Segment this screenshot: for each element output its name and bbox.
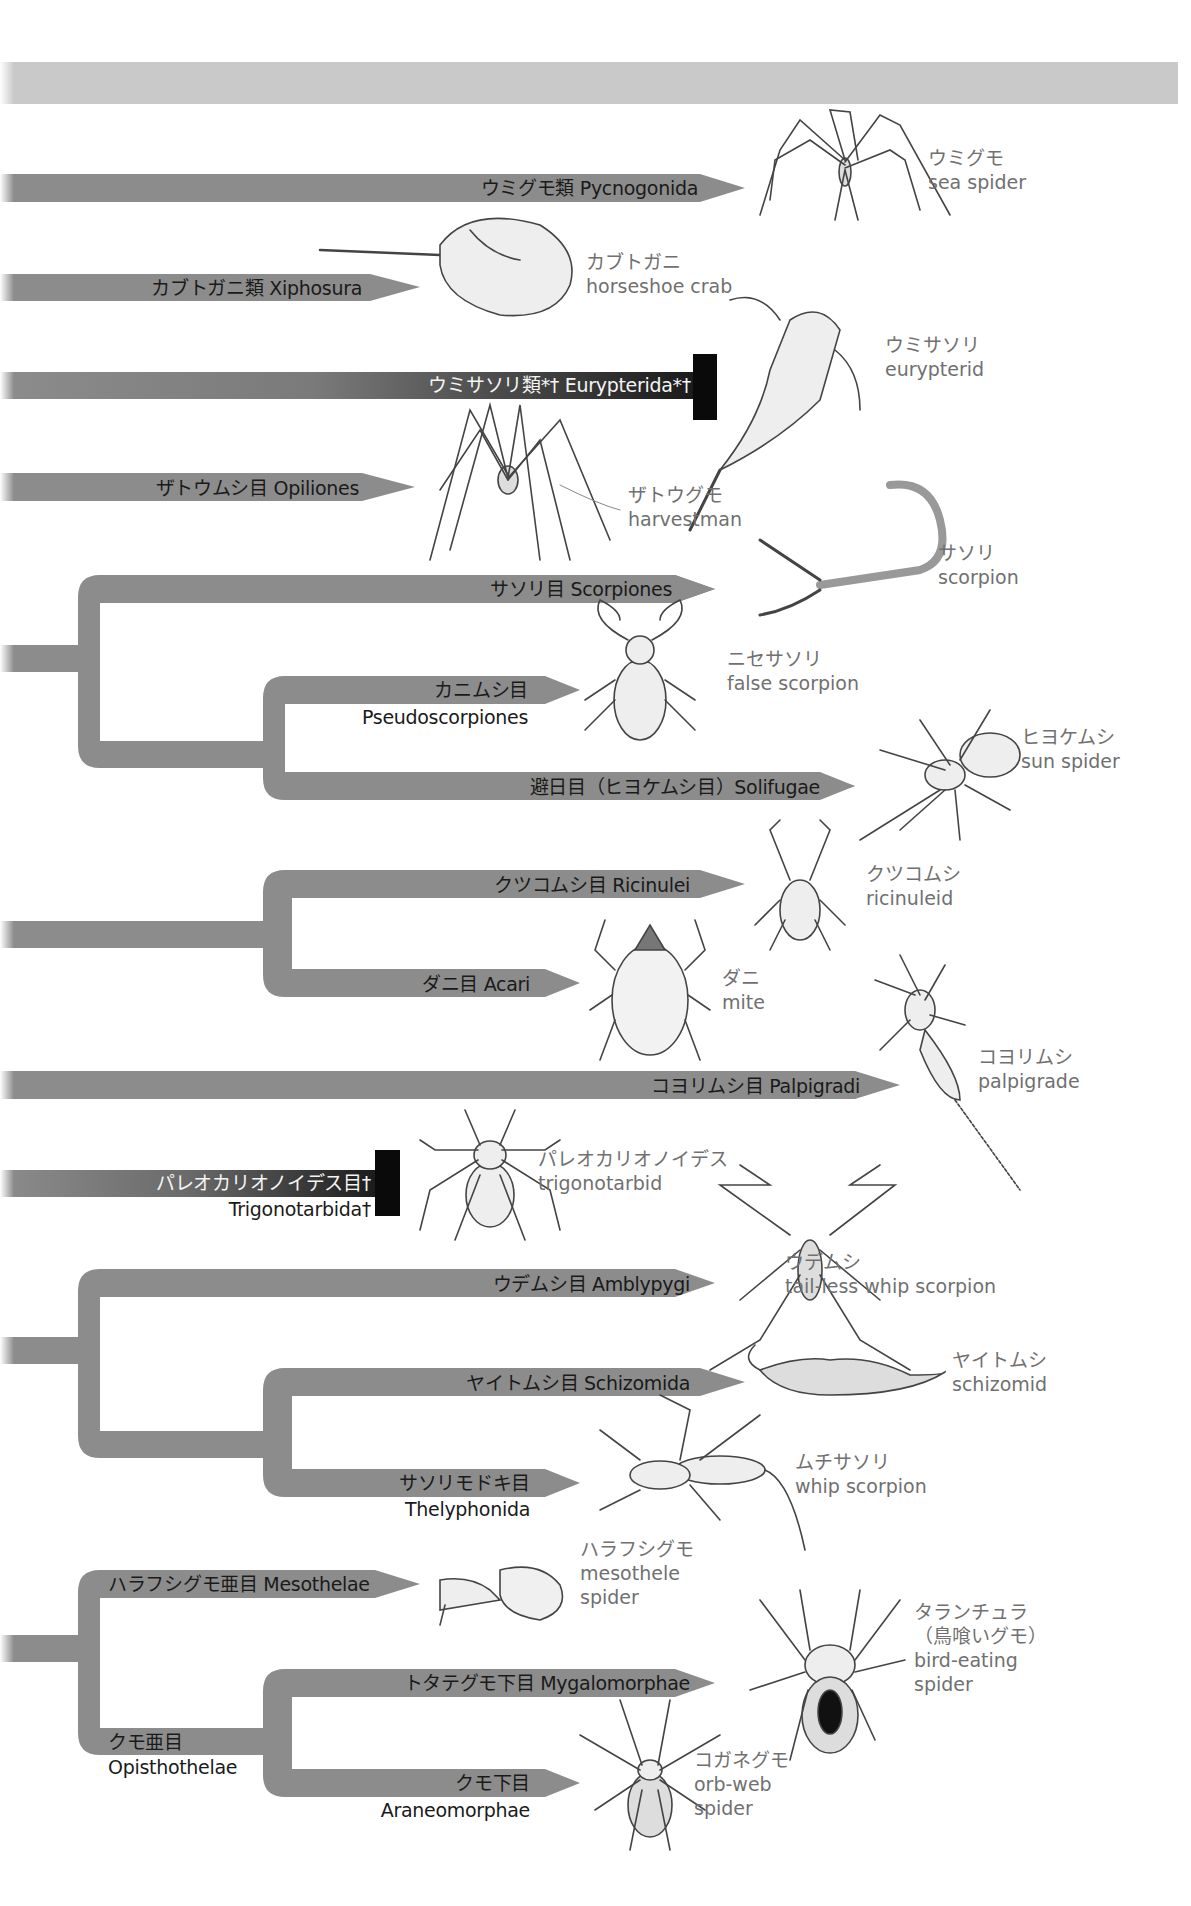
caption-mesothele-spider: ハラフシグモ mesothele spider [580, 1537, 694, 1609]
sun-spider-illustration [860, 710, 1020, 840]
label-ricinulei: クツコムシ目 Ricinulei [494, 874, 690, 896]
false-scorpion-illustration [585, 600, 695, 740]
caption-false-scorpion: ニセサソリ false scorpion [727, 647, 859, 695]
label-amblypygi: ウデムシ目 Amblypygi [493, 1273, 690, 1295]
caption-orb-web-spider: コガネグモ orb-web spider [694, 1748, 789, 1820]
caption-harvestman: ザトウグモ harvestman [628, 483, 742, 531]
caption-whip-scorpion: ムチサソリ whip scorpion [795, 1450, 927, 1498]
caption-scorpion: サソリ scorpion [938, 541, 1019, 589]
schizomid-illustration [749, 1345, 945, 1395]
caption-sea-spider: ウミグモ sea spider [928, 146, 1026, 194]
stem-node2 [0, 921, 270, 948]
caption-sun-spider: ヒヨケムシ sun spider [1021, 725, 1120, 773]
mite-illustration [590, 920, 710, 1060]
ricinuleid-illustration [755, 820, 845, 950]
harvestman-illustration [430, 405, 610, 560]
branch-node4 [78, 1570, 420, 1755]
whip-scorpion-illustration [600, 1395, 805, 1550]
caption-trigonotarbid: パレオカリオノイデス trigonotarbid [538, 1147, 728, 1195]
label-araneomorphae-en: Araneomorphae [381, 1799, 530, 1821]
label-thelyphonida-en: Thelyphonida [405, 1498, 530, 1520]
label-scorpiones: サソリ目 Scorpiones [490, 578, 672, 600]
label-xiphosura: カブトガニ類 Xiphosura [151, 277, 362, 299]
label-pseudoscorpiones-en: Pseudoscorpiones [362, 706, 528, 728]
branch-node1 [78, 575, 715, 768]
caption-bird-eating-spider: タランチュラ （鳥喰いグモ） bird-eating spider [914, 1600, 1047, 1696]
label-opisthothelae-jp: クモ亜目 [108, 1731, 183, 1753]
label-mesothelae: ハラフシグモ亜目 Mesothelae [108, 1573, 370, 1595]
label-palpigradi: コヨリムシ目 Palpigradi [651, 1075, 860, 1097]
label-pseudoscorpiones-jp: カニムシ目 [434, 679, 528, 701]
label-opisthothelae-en: Opisthothelae [108, 1756, 237, 1778]
label-thelyphonida-jp: サソリモドキ目 [399, 1472, 530, 1494]
caption-schizomid: ヤイトムシ schizomid [952, 1348, 1047, 1396]
label-acari: ダニ目 Acari [422, 973, 530, 995]
caption-eurypterid: ウミサソリ eurypterid [885, 333, 984, 381]
caption-ricinuleid: クツコムシ ricinuleid [866, 862, 961, 910]
branch-node3 [78, 1269, 715, 1458]
label-solifugae: 避日目（ヒヨケムシ目）Solifugae [530, 776, 820, 798]
caption-tail-less-whip-scorpion: ウデムシ tail-less whip scorpion [785, 1250, 996, 1298]
mesothele-spider-illustration [440, 1567, 563, 1625]
horseshoe-crab-illustration [320, 218, 572, 315]
extinct-block-eurypterida [693, 354, 717, 420]
caption-palpigrade: コヨリムシ palpigrade [978, 1045, 1080, 1093]
label-eurypterida: ウミサソリ類*† Eurypterida*† [428, 374, 691, 396]
header-band [0, 62, 1178, 104]
label-trigonotarbida-en: Trigonotarbida† [229, 1198, 371, 1220]
label-schizomida: ヤイトムシ目 Schizomida [466, 1372, 690, 1394]
sea-spider-illustration [760, 110, 950, 220]
label-araneomorphae-jp: クモ下目 [455, 1772, 530, 1794]
label-opiliones: ザトウムシ目 Opiliones [156, 477, 359, 499]
bird-eating-spider-illustration [750, 1590, 905, 1760]
caption-mite: ダニ mite [722, 966, 765, 1014]
scorpion-illustration [760, 484, 943, 615]
label-mygalomorphae: トタテグモ下目 Mygalomorphae [404, 1672, 690, 1694]
label-trigonotarbida-jp: パレオカリオノイデス目† [156, 1172, 371, 1194]
extinct-block-trigonotarbida [375, 1150, 400, 1216]
label-pycnogonida: ウミグモ類 Pycnogonida [481, 177, 698, 199]
caption-horseshoe-crab: カブトガニ horseshoe crab [586, 250, 732, 298]
